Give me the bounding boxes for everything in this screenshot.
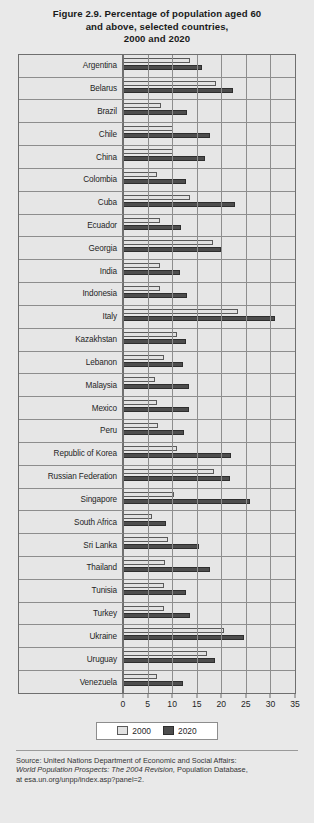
figure-container: Figure 2.9. Percentage of population age…	[0, 0, 314, 823]
figure-title: Figure 2.9. Percentage of population age…	[0, 0, 314, 52]
bar-cell	[123, 625, 295, 647]
bar-2020	[123, 658, 215, 663]
bar-2020	[123, 88, 233, 93]
country-label: Lebanon	[19, 352, 123, 374]
legend-item-2000: 2000	[117, 726, 151, 736]
country-label: Turkey	[19, 603, 123, 625]
bar-cell	[123, 580, 295, 602]
legend-label-2020: 2020	[178, 726, 197, 736]
bar-2000	[123, 309, 238, 314]
source-line-2-rest: Population Database,	[175, 765, 248, 774]
table-row: Uruguay	[19, 648, 295, 671]
bar-cell	[123, 352, 295, 374]
table-row: Tunisia	[19, 580, 295, 603]
table-row: Chile	[19, 123, 295, 146]
source-line-1: Source: United Nations Department of Eco…	[16, 756, 298, 766]
table-row: Belarus	[19, 78, 295, 101]
bar-2000	[123, 377, 155, 382]
country-label: Brazil	[19, 100, 123, 122]
axis-tick	[245, 694, 246, 698]
bar-cell	[123, 603, 295, 625]
bar-2020	[123, 362, 183, 367]
country-label: Peru	[19, 420, 123, 442]
bar-2020	[123, 110, 187, 115]
figure-title-line-2: and above, selected countries,	[18, 21, 296, 34]
country-label: Ecuador	[19, 215, 123, 237]
bar-cell	[123, 283, 295, 305]
bar-2020	[123, 65, 202, 70]
bar-2000	[123, 628, 224, 633]
bar-2000	[123, 126, 173, 131]
table-row: Cuba	[19, 192, 295, 215]
country-label: Kazakhstan	[19, 329, 123, 351]
bar-2000	[123, 103, 161, 108]
table-row: Singapore	[19, 489, 295, 512]
bar-2020	[123, 339, 186, 344]
legend-swatch-2000-icon	[117, 726, 128, 735]
source-publication-title: World Population Prospects: The 2004 Rev…	[16, 765, 175, 774]
country-label: Mexico	[19, 397, 123, 419]
bar-2020	[123, 247, 221, 252]
bar-2020	[123, 384, 189, 389]
axis-tick	[147, 694, 148, 698]
bar-cell	[123, 648, 295, 670]
table-row: Ukraine	[19, 625, 295, 648]
table-row: South Africa	[19, 511, 295, 534]
bar-cell	[123, 443, 295, 465]
table-row: Turkey	[19, 603, 295, 626]
bar-2000	[123, 58, 190, 63]
table-row: China	[19, 146, 295, 169]
table-row: Ecuador	[19, 215, 295, 238]
country-label: Cuba	[19, 192, 123, 214]
bar-2020	[123, 453, 231, 458]
table-row: Brazil	[19, 100, 295, 123]
table-row: Colombia	[19, 169, 295, 192]
chart-area: ArgentinaBelarusBrazilChileChinaColombia…	[18, 54, 296, 694]
bar-cell	[123, 466, 295, 488]
country-label: Malaysia	[19, 374, 123, 396]
bar-2000	[123, 195, 190, 200]
country-label: Argentina	[19, 55, 123, 77]
bar-2000	[123, 240, 213, 245]
axis-tick	[270, 694, 271, 698]
bar-2020	[123, 293, 187, 298]
bar-2000	[123, 514, 152, 519]
bar-2020	[123, 613, 190, 618]
country-label: Singapore	[19, 489, 123, 511]
table-row: Russian Federation	[19, 466, 295, 489]
country-label: Tunisia	[19, 580, 123, 602]
country-label: Colombia	[19, 169, 123, 191]
country-label: Russian Federation	[19, 466, 123, 488]
axis-tick-label: 0	[121, 699, 126, 709]
bar-cell	[123, 192, 295, 214]
axis-tick-label: 15	[192, 699, 202, 709]
bar-cell	[123, 123, 295, 145]
gridline	[295, 55, 296, 693]
table-row: India	[19, 260, 295, 283]
bar-2000	[123, 606, 164, 611]
bar-2020	[123, 476, 230, 481]
axis-tick	[196, 694, 197, 698]
axis-tick-label: 5	[145, 699, 150, 709]
bar-cell	[123, 420, 295, 442]
bar-cell	[123, 55, 295, 77]
bar-cell	[123, 260, 295, 282]
bar-2000	[123, 674, 157, 679]
axis-tick-label: 35	[290, 699, 300, 709]
legend-swatch-2020-icon	[163, 726, 174, 735]
axis-tick	[295, 694, 296, 698]
country-label: Belarus	[19, 78, 123, 100]
bar-2000	[123, 400, 157, 405]
bar-2000	[123, 355, 164, 360]
bar-2000	[123, 469, 214, 474]
bar-cell	[123, 511, 295, 533]
bar-cell	[123, 397, 295, 419]
legend-label-2000: 2000	[132, 726, 151, 736]
bar-cell	[123, 489, 295, 511]
bar-2000	[123, 492, 174, 497]
bar-2000	[123, 172, 157, 177]
table-row: Mexico	[19, 397, 295, 420]
axis-tick	[123, 694, 124, 698]
bar-cell	[123, 215, 295, 237]
bar-cell	[123, 146, 295, 168]
